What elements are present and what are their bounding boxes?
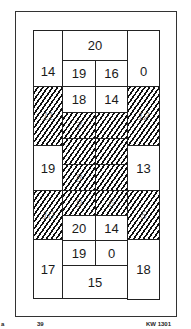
cell-label: 13	[136, 161, 150, 176]
cell-label: 19	[72, 246, 86, 261]
cell-r10-left: 19	[62, 240, 96, 266]
page-number: 39	[37, 321, 44, 327]
cell-label: 19	[72, 66, 86, 81]
cell-label: 11	[42, 110, 53, 122]
cell-mid-right: 13	[127, 145, 160, 191]
cell-bottom-right: 18	[127, 239, 160, 300]
cell-label: 0	[108, 246, 115, 261]
cell-r9-left: 20	[62, 215, 96, 241]
cell-center-3-left: 8	[62, 164, 96, 191]
cell-label: 8	[76, 172, 82, 184]
cell-label: 14	[104, 221, 118, 236]
cell-label: 6	[108, 197, 114, 209]
cell-center-1-right	[95, 112, 128, 139]
cell-r2-right: 16	[95, 60, 128, 87]
cell-label: 17	[41, 262, 55, 277]
cell-bottom-center: 15	[62, 265, 128, 299]
cell-r2-left: 19	[62, 60, 96, 87]
cell-r10-right: 0	[95, 240, 128, 266]
cell-label: 15	[88, 275, 102, 290]
cell-side-left-upper: 11	[33, 86, 63, 146]
cell-label: 10	[42, 209, 54, 221]
cell-label: 12	[137, 110, 149, 122]
cell-side-right-lower: 5	[127, 190, 160, 240]
cell-side-left-lower: 10	[33, 190, 63, 240]
cell-center-3-right	[95, 164, 128, 191]
cell-label: 5	[140, 209, 146, 221]
cell-center-2-left	[62, 138, 96, 165]
cell-label: 16	[104, 66, 118, 81]
cell-mid-left: 19	[33, 145, 63, 191]
footer-left-mark: a	[1, 321, 4, 327]
cell-r9-right: 14	[95, 215, 128, 241]
cell-label: 7	[76, 120, 82, 132]
cell-center-1-left: 7	[62, 112, 96, 139]
figure-code: KW 1301	[146, 321, 171, 327]
cell-label: 14	[41, 64, 55, 79]
cell-center-4-left: 9	[62, 190, 96, 216]
cell-side-right-upper: 12	[127, 86, 160, 146]
cell-label: 19	[41, 161, 55, 176]
cell-r3-left: 18	[62, 86, 96, 113]
cell-label: 0	[140, 64, 147, 79]
cell-label: 18	[136, 262, 150, 277]
cell-r3-right: 14	[95, 86, 128, 113]
cell-label: 20	[72, 221, 86, 236]
cell-top-center: 20	[62, 30, 128, 61]
cell-label: 20	[88, 38, 102, 53]
cell-label: 9	[76, 197, 82, 209]
cell-label: 18	[72, 92, 86, 107]
cell-center-4-right: 6	[95, 190, 128, 216]
cell-center-2-right	[95, 138, 128, 165]
cell-label: 14	[104, 92, 118, 107]
cell-bottom-left: 17	[33, 239, 63, 299]
